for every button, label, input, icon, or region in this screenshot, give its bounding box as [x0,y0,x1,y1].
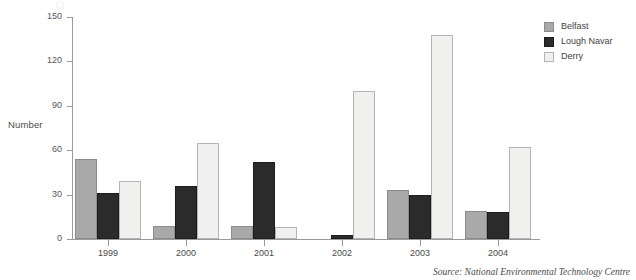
bar [197,143,219,239]
bar [409,195,431,239]
bar [75,159,97,239]
x-tick-label: 1999 [78,248,138,258]
bar-group [387,17,453,239]
y-tick-label: 90 [52,100,62,110]
bar [119,181,141,239]
legend-swatch-icon [544,22,554,32]
y-tick-label: 120 [47,55,62,65]
legend-swatch-icon [544,37,554,47]
x-tick-mark [420,239,421,246]
y-tick-mark [67,239,72,240]
legend-label: Lough Navar [561,36,613,47]
y-tick-label: 150 [47,11,62,21]
x-tick-mark [186,239,187,246]
x-tick-mark [498,239,499,246]
legend-item: Belfast [544,19,613,34]
x-tick-label: 2003 [390,248,450,258]
bar [153,226,175,239]
bar-group [309,17,375,239]
bar [253,162,275,239]
legend-label: Derry [561,51,583,62]
x-tick-label: 2002 [312,248,372,258]
bar [97,193,119,239]
x-tick-mark [342,239,343,246]
x-tick-label: 2001 [234,248,294,258]
bar [175,186,197,239]
legend-swatch-icon [544,52,554,62]
x-tick-label: 2004 [468,248,528,258]
y-tick-label: 0 [57,233,62,243]
x-tick-mark [108,239,109,246]
plot-area [72,17,540,239]
x-tick-label: 2000 [156,248,216,258]
legend-item: Derry [544,49,613,64]
bar [275,227,297,239]
bar [465,211,487,239]
x-tick-mark [264,239,265,246]
bar [353,91,375,239]
legend-item: Lough Navar [544,34,613,49]
bar-group [465,17,531,239]
y-tick-label: 30 [52,189,62,199]
bar [431,35,453,239]
bar [387,190,409,239]
bar-group [153,17,219,239]
bar [509,147,531,239]
y-axis-title: Number [8,119,43,130]
y-tick-label: 60 [52,144,62,154]
bar-group [75,17,141,239]
scan-artifact-icon [56,1,64,9]
x-axis-line [72,239,540,240]
bar-group [231,17,297,239]
bar [487,212,509,239]
legend-label: Belfast [561,21,589,32]
bar-chart: Number 0306090120150 1999200020012002200… [0,0,636,280]
bar [231,226,253,239]
legend: BelfastLough NavarDerry [544,19,613,64]
source-note: Source: National Environmental Technolog… [433,267,630,277]
